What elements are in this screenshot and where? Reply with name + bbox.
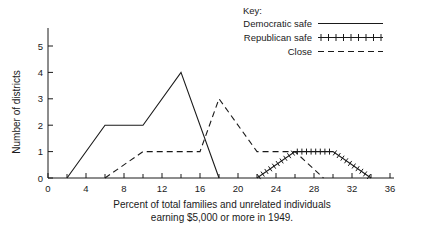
x-tick-label-20: 20 — [233, 183, 244, 194]
chart-figure: 012345Number of districts048121620242832… — [0, 0, 426, 231]
x-tick-label-24: 24 — [271, 183, 282, 194]
x-tick-label-36: 36 — [385, 183, 396, 194]
y-tick-label-1: 1 — [38, 146, 43, 157]
y-tick-label-2: 2 — [38, 120, 43, 131]
legend-label-republican-safe: Republican safe — [244, 32, 312, 43]
chart-svg: 012345Number of districts048121620242832… — [0, 0, 426, 231]
legend-label-democratic-safe: Democratic safe — [243, 18, 312, 29]
legend-title: Key: — [243, 5, 262, 16]
legend-label-close: Close — [288, 46, 312, 57]
y-tick-label-0: 0 — [38, 173, 43, 184]
x-tick-label-0: 0 — [45, 183, 50, 194]
series-line-democratic-safe — [67, 72, 219, 178]
y-tick-label-5: 5 — [38, 41, 43, 52]
y-tick-label-4: 4 — [38, 67, 43, 78]
x-tick-label-28: 28 — [309, 183, 320, 194]
x-tick-label-8: 8 — [121, 183, 126, 194]
x-axis-title-line1: Percent of total families and unrelated … — [113, 199, 330, 210]
x-tick-label-12: 12 — [157, 183, 168, 194]
y-axis-title: Number of districts — [11, 70, 22, 153]
x-tick-label-32: 32 — [347, 183, 358, 194]
x-tick-label-4: 4 — [83, 183, 88, 194]
x-tick-label-16: 16 — [195, 183, 206, 194]
y-tick-label-3: 3 — [38, 93, 43, 104]
x-axis-title-line2: earning $5,000 or more in 1949. — [151, 212, 293, 223]
